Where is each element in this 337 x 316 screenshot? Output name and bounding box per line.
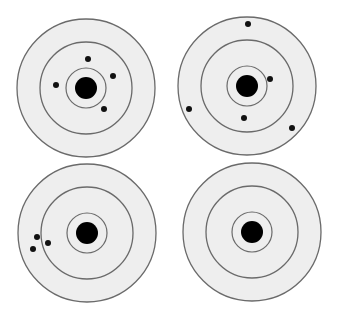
bullet-hole xyxy=(241,115,247,121)
bullet-hole xyxy=(85,56,91,62)
bullet-hole xyxy=(245,21,251,27)
bullet-hole xyxy=(110,73,116,79)
bullet-hole xyxy=(289,125,295,131)
bullet-hole xyxy=(34,234,40,240)
bullseye xyxy=(75,77,97,99)
bullseye xyxy=(241,221,263,243)
bullseye xyxy=(76,222,98,244)
target-bottom-left xyxy=(18,164,156,302)
bullet-hole xyxy=(53,82,59,88)
target-top-right xyxy=(178,17,316,155)
bullet-hole xyxy=(30,246,36,252)
target-top-left xyxy=(17,19,155,157)
bullseye xyxy=(236,75,258,97)
bullet-hole xyxy=(45,240,51,246)
targets-figure xyxy=(0,0,337,316)
target-bottom-right xyxy=(183,163,321,301)
bullet-hole xyxy=(101,106,107,112)
bullet-hole xyxy=(186,106,192,112)
bullet-hole xyxy=(267,76,273,82)
